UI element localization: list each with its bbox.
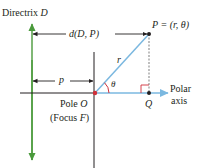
point-Q bbox=[147, 91, 151, 95]
pole-label: Pole O bbox=[60, 99, 88, 109]
radius-ray bbox=[95, 34, 149, 93]
directrix-label: Directrix D bbox=[2, 8, 48, 18]
pole-point bbox=[93, 91, 97, 95]
radius-label: r bbox=[117, 55, 121, 65]
theta-label: θ bbox=[111, 80, 115, 89]
polar-label: Polar bbox=[170, 84, 191, 94]
focus-label: (Focus F) bbox=[50, 113, 89, 123]
point-P bbox=[147, 32, 151, 36]
axis-label: axis bbox=[171, 96, 187, 106]
theta-arc bbox=[105, 83, 110, 93]
point-P-label: P = (r, θ) bbox=[152, 20, 189, 30]
p-label: p bbox=[59, 75, 64, 85]
distance-label: d(D, P) bbox=[69, 29, 99, 39]
point-Q-label: Q bbox=[145, 99, 152, 109]
